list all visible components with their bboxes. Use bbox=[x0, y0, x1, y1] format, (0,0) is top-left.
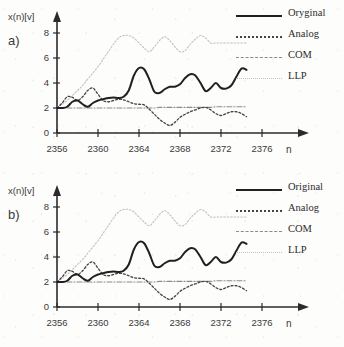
legend-swatch bbox=[236, 252, 282, 256]
series-line-llp bbox=[57, 209, 247, 282]
legend-label: COM bbox=[288, 49, 312, 60]
y-tick-label: 6 bbox=[33, 52, 49, 63]
y-tick-label: 0 bbox=[33, 127, 49, 138]
legend-item-analog: Analog bbox=[236, 201, 340, 222]
x-tick-label: 2372 bbox=[201, 143, 241, 154]
y-tick-label: 8 bbox=[33, 201, 49, 212]
legend-b: OriginalAnalogCOMLLP bbox=[236, 180, 340, 264]
x-tick-label: 2368 bbox=[160, 317, 200, 328]
legend-label: Oryginal bbox=[288, 7, 325, 18]
legend-item-oryginal: Oryginal bbox=[236, 6, 340, 27]
legend-item-analog: Analog bbox=[236, 27, 340, 48]
legend-item-llp: LLP bbox=[236, 69, 340, 90]
x-tick-label: 2364 bbox=[119, 317, 159, 328]
legend-label: COM bbox=[288, 223, 312, 234]
chart-panel-a: x(n)[v] a) n OryginalAnalogCOMLLP 024682… bbox=[0, 0, 344, 173]
y-tick-label: 4 bbox=[33, 77, 49, 88]
x-tick-label: 2360 bbox=[78, 317, 118, 328]
y-tick-label: 0 bbox=[33, 301, 49, 312]
legend-swatch bbox=[236, 36, 282, 41]
y-tick-label: 4 bbox=[33, 251, 49, 262]
legend-swatch bbox=[236, 231, 282, 235]
x-tick-label: 2368 bbox=[160, 143, 200, 154]
legend-label: Analog bbox=[288, 28, 319, 39]
x-tick-label: 2356 bbox=[37, 317, 77, 328]
y-tick-label: 6 bbox=[33, 226, 49, 237]
legend-a: OryginalAnalogCOMLLP bbox=[236, 6, 340, 90]
legend-label: Analog bbox=[288, 202, 319, 213]
legend-item-original: Original bbox=[236, 180, 340, 201]
series-line-original bbox=[57, 241, 247, 282]
legend-item-com: COM bbox=[236, 222, 340, 243]
x-tick-label: 2360 bbox=[78, 143, 118, 154]
legend-swatch bbox=[236, 78, 282, 82]
legend-swatch bbox=[236, 57, 282, 61]
x-tick-label: 2372 bbox=[201, 317, 241, 328]
legend-label: LLP bbox=[288, 70, 307, 81]
x-tick-label: 2364 bbox=[119, 143, 159, 154]
legend-swatch bbox=[236, 15, 282, 20]
series-line-oryginal bbox=[57, 67, 247, 108]
legend-label: Original bbox=[288, 181, 323, 192]
x-tick-label: 2376 bbox=[242, 143, 282, 154]
chart-panel-b: x(n)[v] b) n OriginalAnalogCOMLLP 024682… bbox=[0, 174, 344, 347]
y-tick-label: 2 bbox=[33, 276, 49, 287]
x-tick-label: 2376 bbox=[242, 317, 282, 328]
legend-swatch bbox=[236, 189, 282, 194]
legend-swatch bbox=[236, 210, 282, 215]
y-tick-label: 8 bbox=[33, 27, 49, 38]
legend-item-llp: LLP bbox=[236, 243, 340, 264]
series-line-llp bbox=[57, 35, 247, 108]
x-tick-label: 2356 bbox=[37, 143, 77, 154]
y-tick-label: 2 bbox=[33, 102, 49, 113]
legend-item-com: COM bbox=[236, 48, 340, 69]
legend-label: LLP bbox=[288, 244, 307, 255]
